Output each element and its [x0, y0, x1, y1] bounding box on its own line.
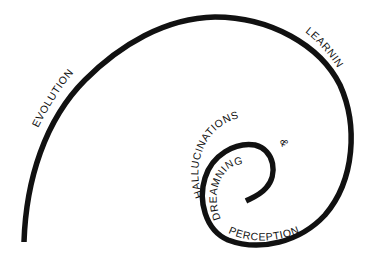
spiral-curve: [24, 17, 351, 245]
spiral-diagram: EVOLUTION LEARNING HALLUCINATIONS & DREA…: [0, 0, 372, 260]
label-learning: LEARNING: [0, 0, 346, 70]
label-ampersand: &: [278, 137, 292, 148]
